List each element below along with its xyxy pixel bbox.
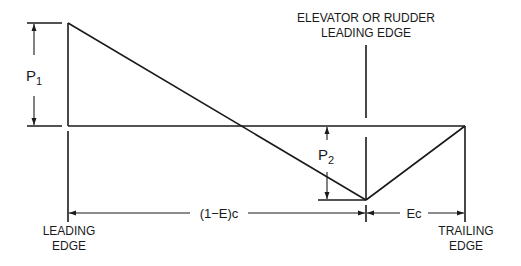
elevator-label-line1: ELEVATOR OR RUDDER [297,11,435,25]
dim-left-label: (1−E)c [200,206,239,221]
trailing-edge-label-line1: TRAILING [438,224,493,238]
p2-label: P2 [318,146,334,166]
load-slope-main [68,23,366,200]
dim-right-label: Ec [406,206,422,221]
trailing-edge-label-line2: EDGE [449,239,483,253]
p1-label: P1 [26,67,42,87]
load-slope-elevator [366,126,465,200]
elevator-label-line2: LEADING EDGE [321,26,411,40]
leading-edge-label-line1: LEADING [43,224,96,238]
load-diagram: P1 P2 (1−E)c Ec ELEVATOR OR RUDDER LEADI… [0,0,521,266]
leading-edge-label-line2: EDGE [52,239,86,253]
